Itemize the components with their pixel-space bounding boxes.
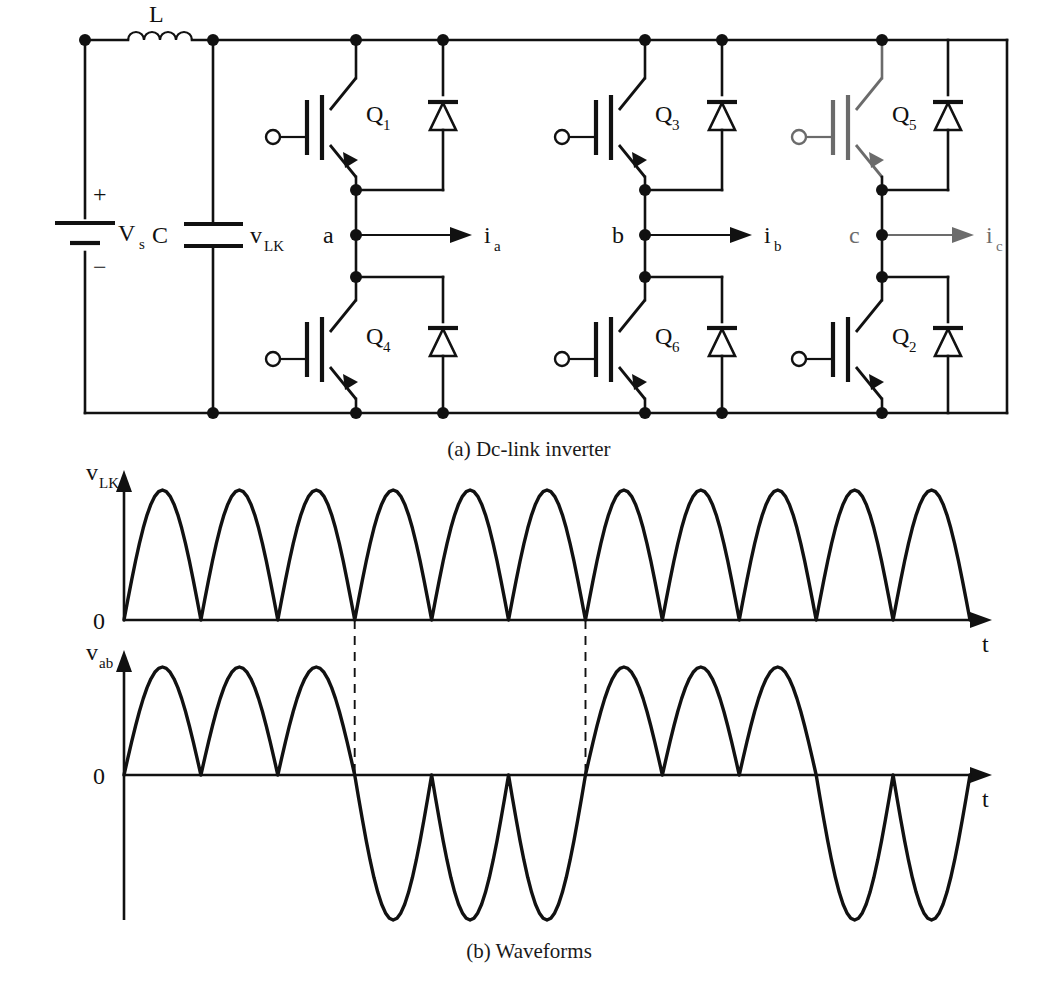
q5-gate-terminal-icon[interactable] xyxy=(792,130,806,144)
q2-gate-terminal-icon[interactable] xyxy=(792,352,806,366)
top-diode-a-node xyxy=(437,34,449,46)
current-a-label-sub: a xyxy=(494,238,501,254)
q5-label: Q xyxy=(892,101,909,127)
q3-label: Q xyxy=(655,101,672,127)
q1-gate-terminal-icon[interactable] xyxy=(266,130,280,144)
top-diode-b-node xyxy=(716,34,728,46)
vab-x-axis-title: t xyxy=(982,786,989,812)
top-leg-a-node xyxy=(350,34,362,46)
capacitor-label: C xyxy=(152,222,168,248)
q4-label-sub: 4 xyxy=(383,339,391,355)
source-label: V xyxy=(118,220,136,246)
caption-a: (a) Dc-link inverter xyxy=(447,437,610,461)
vab-y-axis-label: v xyxy=(86,639,98,665)
figure-svg: + − V s C v LK L Q 1 xyxy=(0,0,1059,981)
bottom-leg-a-node xyxy=(350,407,362,419)
top-leg-c-node xyxy=(876,34,888,46)
leg-c-upper-junction xyxy=(876,184,888,196)
q6-label-sub: 6 xyxy=(672,339,680,355)
top-cap-node xyxy=(207,34,219,46)
current-b-label-sub: b xyxy=(774,238,782,254)
top-left-node xyxy=(79,34,91,46)
q3-label-sub: 3 xyxy=(672,117,680,133)
q2-label: Q xyxy=(892,323,909,349)
bottom-diode-a-node xyxy=(437,407,449,419)
bottom-leg-b-node xyxy=(639,407,651,419)
current-b-label: i xyxy=(764,222,771,248)
leg-b-upper-junction xyxy=(639,184,651,196)
cap-voltage-label: v xyxy=(250,222,262,248)
bottom-leg-c-node xyxy=(876,407,888,419)
current-c-label: i xyxy=(986,222,993,248)
node-a-label: a xyxy=(323,222,334,248)
q4-gate-terminal-icon[interactable] xyxy=(266,352,280,366)
node-b-label: b xyxy=(612,222,624,248)
current-a-label: i xyxy=(484,222,491,248)
vlk-y-axis-label: v xyxy=(86,459,98,485)
q3-gate-terminal-icon[interactable] xyxy=(555,130,569,144)
q4-label: Q xyxy=(366,323,383,349)
vab-zero-tick-label: 0 xyxy=(93,763,105,789)
node-c-label: c xyxy=(849,222,860,248)
q6-label: Q xyxy=(655,323,672,349)
leg-a-upper-junction xyxy=(350,184,362,196)
q1-label: Q xyxy=(366,101,383,127)
inductor-label: L xyxy=(149,1,164,27)
caption-b: (b) Waveforms xyxy=(466,939,592,963)
q5-label-sub: 5 xyxy=(909,117,917,133)
current-c-label-sub: c xyxy=(996,238,1003,254)
q2-label-sub: 2 xyxy=(909,339,917,355)
top-leg-b-node xyxy=(639,34,651,46)
vlk-x-axis-title: t xyxy=(982,631,989,657)
vab-y-axis-label-sub: ab xyxy=(99,655,113,671)
bottom-diode-b-node xyxy=(716,407,728,419)
battery-plus-label: + xyxy=(93,181,107,207)
source-label-sub: s xyxy=(139,236,145,252)
bottom-cap-node xyxy=(207,407,219,419)
vlk-zero-tick-label: 0 xyxy=(93,608,105,634)
battery-minus-label: − xyxy=(93,254,107,280)
figure-root: + − V s C v LK L Q 1 xyxy=(0,0,1059,981)
q6-gate-terminal-icon[interactable] xyxy=(555,352,569,366)
cap-voltage-label-sub: LK xyxy=(264,238,284,254)
vlk-y-axis-label-sub: LK xyxy=(99,475,119,491)
q1-label-sub: 1 xyxy=(383,117,391,133)
